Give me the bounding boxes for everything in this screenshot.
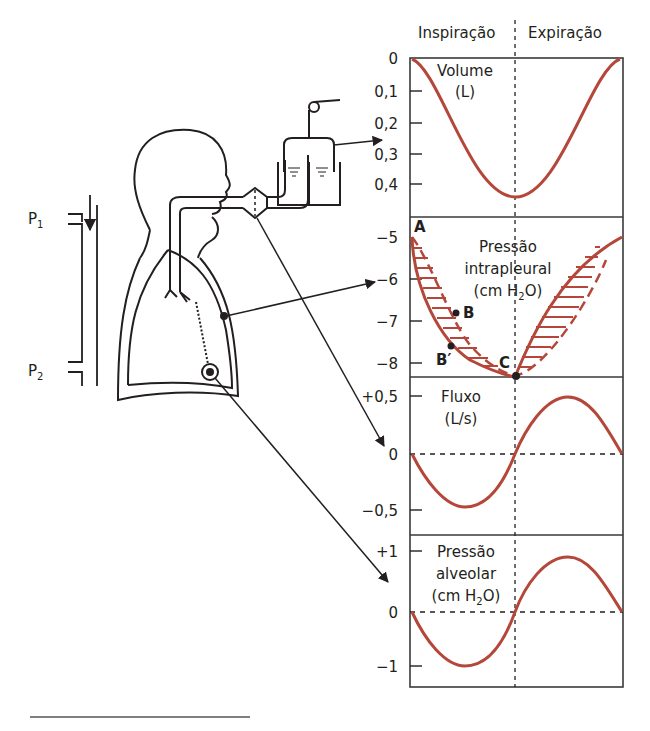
svg-text:+1: +1	[376, 543, 398, 561]
point-c-label: C	[499, 354, 510, 372]
point-a-label: A	[414, 218, 426, 236]
svg-text:(L): (L)	[455, 83, 475, 101]
svg-text:alveolar: alveolar	[436, 565, 497, 583]
svg-text:Pressão: Pressão	[479, 238, 537, 256]
svg-text:+0,5: +0,5	[362, 388, 398, 406]
panel-alveolar: +1 0 −1 Pressão alveolar (cm H2O)	[376, 543, 623, 676]
pressure-gauge	[68, 195, 97, 386]
svg-text:−8: −8	[376, 355, 398, 373]
point-b-prime-label: B′	[436, 351, 451, 369]
svg-text:−7: −7	[376, 313, 398, 331]
svg-text:Pressão: Pressão	[437, 543, 495, 561]
svg-text:0,4: 0,4	[374, 176, 398, 194]
chest-outer	[118, 258, 238, 400]
p2-label: P2	[28, 362, 43, 382]
volume-title: Volume	[437, 62, 493, 80]
svg-text:(L/s): (L/s)	[445, 410, 478, 428]
phase-inspiration-label: Inspiração	[418, 24, 495, 42]
svg-text:0: 0	[388, 50, 398, 68]
panel-pleural: −5 −6 −7 −8 Pressão intrapleural (cm H2O…	[376, 218, 622, 380]
svg-text:−0,5: −0,5	[362, 502, 398, 520]
point-b-label: B	[463, 304, 474, 322]
flow-curve	[412, 397, 622, 507]
svg-text:intrapleural: intrapleural	[465, 260, 552, 278]
svg-text:−1: −1	[376, 658, 398, 676]
body-diagram	[118, 100, 340, 400]
svg-text:0,1: 0,1	[374, 83, 398, 101]
svg-text:−5: −5	[376, 229, 398, 247]
p1-label: P1	[28, 210, 43, 230]
respiration-figure: P1 P2 Inspiração Expiração 0 0,1 0,2 0,3…	[0, 0, 650, 731]
svg-text:(cm H2O): (cm H2O)	[474, 282, 543, 302]
svg-text:(cm H2O): (cm H2O)	[432, 587, 501, 607]
svg-text:0: 0	[388, 604, 398, 622]
panel-flow: +0,5 0 −0,5 Fluxo (L/s)	[362, 388, 623, 520]
svg-text:Fluxo: Fluxo	[441, 388, 481, 406]
svg-text:−6: −6	[376, 271, 398, 289]
svg-text:0,3: 0,3	[374, 146, 398, 164]
svg-text:0: 0	[388, 446, 398, 464]
svg-text:0,2: 0,2	[374, 115, 398, 133]
phase-expiration-label: Expiração	[528, 24, 602, 42]
panel-volume: 0 0,1 0,2 0,3 0,4 Volume (L)	[374, 50, 620, 197]
